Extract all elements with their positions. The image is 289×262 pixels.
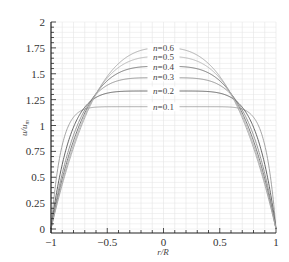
x-tick-label: −0.5 [97,236,117,248]
x-tick-label: 1 [273,236,279,248]
y-axis-title-main: u/u [19,124,29,136]
svg-text:u/um: u/um [19,119,30,136]
x-axis-title: r/R [157,247,169,257]
y-tick-label: 0 [40,223,46,235]
y-tick-label: 0.25 [26,197,46,209]
curve-label: n=0.1 [153,102,174,112]
curve-label: n=0.2 [153,86,174,96]
curve-label: n=0.4 [153,62,174,72]
y-axis-title: u/um [19,119,30,136]
velocity-profile-chart: n=0.6n=0.5n=0.4n=0.3n=0.2n=0.1 00.250.50… [0,0,289,262]
y-tick-label: 0.5 [31,171,45,183]
y-axis-title-sub: m [24,119,30,124]
y-tick-label: 2 [40,16,46,28]
curve-label: n=0.3 [153,72,174,82]
y-tick-label: 1.75 [26,42,46,54]
y-tick-label: 1.5 [31,68,45,80]
curve-label: n=0.5 [153,52,174,62]
y-tick-label: 0.75 [26,145,46,157]
y-tick-label: 1.25 [26,94,46,106]
x-tick-label: 0.5 [213,236,227,248]
y-tick-label: 1 [40,120,46,132]
x-tick-label: −1 [45,236,57,248]
